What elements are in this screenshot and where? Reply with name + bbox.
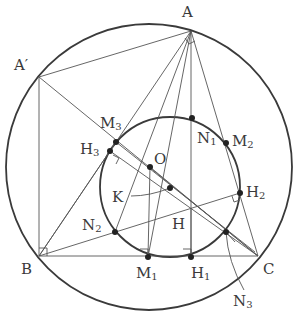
- altitude-from-C: [110, 151, 258, 256]
- geometry-diagram: AA′BCOKHM1M2M3H1H2H3N1N2N3: [0, 0, 299, 322]
- label-B: B: [21, 262, 32, 277]
- segment-B-M3: [39, 142, 116, 256]
- label-H2: H2: [246, 185, 265, 201]
- label-O: O: [154, 152, 166, 167]
- label-subscript: 1: [151, 271, 157, 282]
- label-H1: H1: [191, 266, 210, 282]
- point-O: [147, 164, 153, 170]
- label-text: M: [100, 114, 115, 132]
- label-text: H: [80, 140, 93, 158]
- label-subscript: 2: [247, 139, 253, 150]
- point-N2: [112, 229, 118, 235]
- label-K: K: [112, 190, 123, 205]
- label-H: H: [172, 217, 185, 232]
- label-N1: N1: [197, 131, 217, 147]
- label-text: A′: [14, 56, 28, 74]
- label-text: B: [21, 260, 32, 278]
- point-N1: [189, 115, 195, 121]
- label-C: C: [263, 262, 274, 277]
- label-A_prime: A′: [14, 58, 28, 73]
- point-M2: [223, 140, 229, 146]
- label-subscript: 3: [93, 147, 99, 158]
- label-subscript: 1: [210, 136, 216, 147]
- label-text: O: [154, 150, 166, 168]
- label-N3: N3: [233, 294, 253, 310]
- point-M1: [145, 254, 151, 260]
- label-text: N: [82, 216, 95, 234]
- label-text: H: [191, 264, 204, 282]
- label-text: A: [182, 3, 193, 21]
- label-text: K: [112, 188, 123, 206]
- label-text: N: [233, 292, 246, 310]
- label-M2: M2: [232, 134, 254, 150]
- label-subscript: 2: [95, 223, 101, 234]
- label-subscript: 3: [115, 121, 121, 132]
- label-subscript: 2: [259, 190, 265, 201]
- label-M1: M1: [136, 266, 158, 282]
- point-H3: [107, 148, 113, 154]
- perpendicular-bisector-BC: [148, 167, 150, 257]
- label-text: M: [136, 264, 151, 282]
- label-text: M: [232, 132, 247, 150]
- point-H1: [188, 254, 194, 260]
- label-A: A: [182, 5, 193, 20]
- label-text: C: [263, 260, 274, 278]
- label-M3: M3: [100, 116, 122, 132]
- label-H3: H3: [80, 142, 99, 158]
- point-H2: [237, 190, 243, 196]
- euler-line-O-H: [150, 167, 258, 256]
- label-text: H: [246, 183, 259, 201]
- point-M3: [113, 139, 119, 145]
- point-N3: [223, 229, 229, 235]
- label-N2: N2: [82, 218, 102, 234]
- point-K: [167, 185, 173, 191]
- label-text: H: [172, 215, 185, 233]
- label-subscript: 3: [246, 299, 252, 310]
- altitude-from-B: [39, 193, 240, 256]
- label-text: N: [197, 129, 210, 147]
- label-subscript: 1: [204, 271, 210, 282]
